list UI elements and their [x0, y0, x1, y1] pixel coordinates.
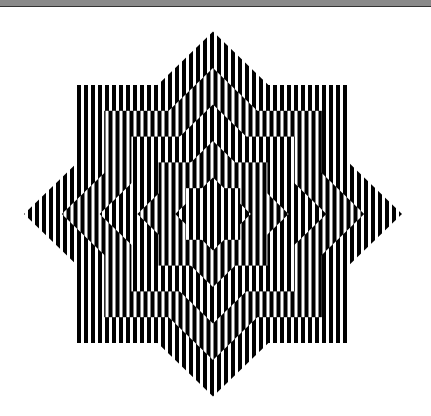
nested-star-levels [24, 32, 402, 397]
star-illusion [0, 0, 431, 416]
